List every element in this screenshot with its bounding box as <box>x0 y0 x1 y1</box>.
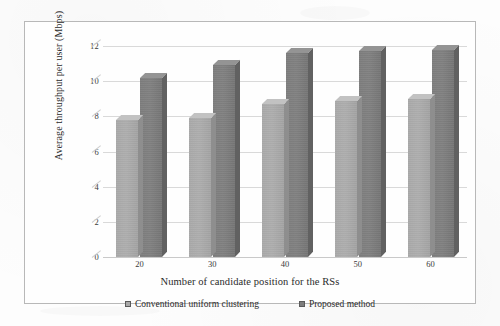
bar-conventional-20 <box>116 120 138 257</box>
x-axis-tick-label: 20 <box>135 260 144 269</box>
bar-front-face <box>408 99 430 257</box>
bar-side-face <box>138 115 143 257</box>
bar-front-face <box>286 53 308 257</box>
chart-legend: Conventional uniform clustering Proposed… <box>25 299 475 309</box>
figure-page: Average throughput per user (Mbps) 02468… <box>0 0 500 326</box>
bar-side-face <box>235 60 240 257</box>
bar-front-face <box>189 118 211 257</box>
bar-conventional-40 <box>262 104 284 257</box>
legend-swatch-proposed-icon <box>299 301 305 307</box>
bar-side-face <box>454 44 459 257</box>
legend-swatch-conventional-icon <box>125 301 131 307</box>
bar-proposed-20 <box>140 78 162 257</box>
bar-conventional-30 <box>189 118 211 257</box>
legend-label-conventional: Conventional uniform clustering <box>135 299 259 309</box>
bar-group <box>408 46 454 257</box>
chart-frame: Average throughput per user (Mbps) 02468… <box>24 21 476 304</box>
bar-side-face <box>284 99 289 257</box>
bar-side-face <box>430 94 435 257</box>
bar-group <box>189 46 235 257</box>
legend-item-conventional: Conventional uniform clustering <box>125 299 259 309</box>
bar-side-face <box>308 48 313 257</box>
bar-front-face <box>359 51 381 257</box>
x-axis-tick-label: 30 <box>208 260 217 269</box>
bar-group <box>116 46 162 257</box>
bar-group <box>335 46 381 257</box>
x-axis-tick-label: 40 <box>281 260 290 269</box>
bar-front-face <box>213 65 235 257</box>
bar-group <box>262 46 308 257</box>
bar-proposed-30 <box>213 65 235 257</box>
x-axis-ticks: 2030405060 <box>103 260 467 272</box>
x-axis-label: Number of candidate position for the RSs <box>25 276 475 287</box>
grid-line <box>103 257 467 258</box>
y-axis: 024681012 <box>73 46 103 257</box>
legend-label-proposed: Proposed method <box>309 299 375 309</box>
legend-item-proposed: Proposed method <box>299 299 375 309</box>
bar-front-face <box>140 78 162 257</box>
bar-proposed-50 <box>359 51 381 257</box>
y-axis-label: Average throughput per user (Mbps) <box>53 0 64 181</box>
bar-proposed-40 <box>286 53 308 257</box>
bar-side-face <box>381 46 386 257</box>
bar-side-face <box>357 95 362 257</box>
bar-conventional-50 <box>335 101 357 257</box>
bar-side-face <box>211 113 216 257</box>
bar-front-face <box>116 120 138 257</box>
plot-area <box>103 46 467 257</box>
scan-artifact <box>300 6 370 20</box>
bar-front-face <box>262 104 284 257</box>
x-axis-tick-label: 60 <box>426 260 435 269</box>
bar-side-face <box>162 72 167 257</box>
x-axis-tick-label: 50 <box>354 260 363 269</box>
bar-conventional-60 <box>408 99 430 257</box>
bar-front-face <box>335 101 357 257</box>
